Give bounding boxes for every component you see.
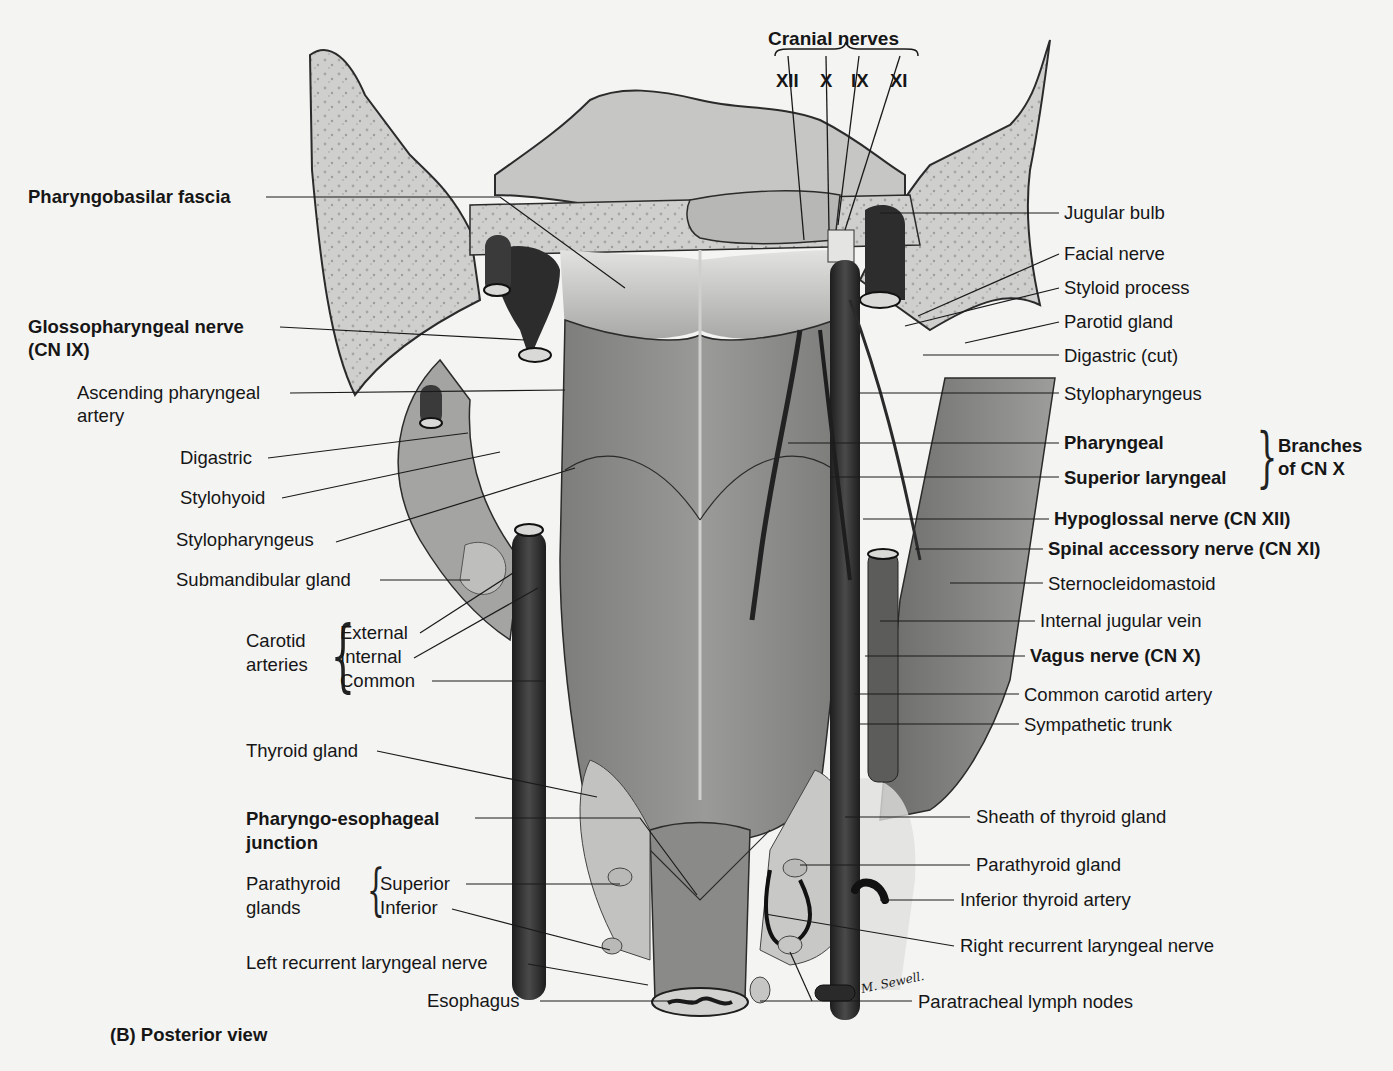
label-glossopharyngeal-cn: (CN IX) — [28, 339, 90, 361]
label-parathyroid-group-2: glands — [246, 897, 301, 919]
label-pharyngobasilar-fascia: Pharyngobasilar fascia — [28, 186, 231, 208]
pharynx-constrictors — [560, 320, 850, 845]
label-digastric: Digastric — [180, 447, 252, 469]
paratracheal-node-1 — [750, 977, 770, 1003]
label-styloid-process: Styloid process — [1064, 277, 1189, 299]
sternocleidomastoid-muscle — [880, 378, 1055, 820]
label-hypoglossal-nerve: Hypoglossal nerve (CN XII) — [1054, 508, 1290, 530]
label-pharyngo-esophageal: Pharyngo-esophageal — [246, 808, 439, 830]
label-carotid-external: External — [340, 622, 408, 644]
cn-xi-label: XI — [890, 70, 907, 92]
label-carotid-internal: Internal — [340, 646, 402, 668]
label-branches-group: Branches — [1278, 435, 1362, 457]
label-stylopharyngeus-right: Stylopharyngeus — [1064, 383, 1202, 405]
label-parathyroid-superior: Superior — [380, 873, 450, 895]
occipital-bone — [495, 91, 905, 210]
label-internal-jugular-vein: Internal jugular vein — [1040, 610, 1201, 632]
label-stylohyoid: Stylohyoid — [180, 487, 265, 509]
right-parathyroid — [783, 859, 807, 877]
esophagus-tube — [650, 823, 750, 1001]
label-left-recurrent-laryngeal: Left recurrent laryngeal nerve — [246, 952, 488, 974]
label-pharyngeal-branch: Pharyngeal — [1064, 432, 1164, 454]
label-vagus-nerve: Vagus nerve (CN X) — [1030, 645, 1201, 667]
label-carotid-common: Common — [340, 670, 415, 692]
figure-caption: (B) Posterior view — [110, 1024, 267, 1046]
label-ascending-pharyngeal-artery: artery — [77, 405, 124, 427]
petrous-ridge — [687, 191, 840, 244]
label-spinal-accessory-nerve: Spinal accessory nerve (CN XI) — [1048, 538, 1320, 560]
right-common-carotid — [830, 260, 860, 1020]
left-mandible-muscle — [398, 360, 520, 640]
label-sheath-of-thyroid: Sheath of thyroid gland — [976, 806, 1166, 828]
label-sympathetic-trunk: Sympathetic trunk — [1024, 714, 1172, 736]
label-carotid-group: Carotid — [246, 630, 306, 652]
label-right-recurrent-laryngeal: Right recurrent laryngeal nerve — [960, 935, 1214, 957]
cn-xii-label: XII — [776, 70, 799, 92]
label-esophagus: Esophagus — [427, 990, 520, 1012]
nerve-sheath-cuff — [828, 230, 854, 262]
label-digastric-cut: Digastric (cut) — [1064, 345, 1178, 367]
label-facial-nerve: Facial nerve — [1064, 243, 1165, 265]
label-glossopharyngeal-nerve: Glossopharyngeal nerve — [28, 316, 244, 338]
label-submandibular-gland: Submandibular gland — [176, 569, 351, 591]
label-jugular-bulb: Jugular bulb — [1064, 202, 1165, 224]
label-pharyngo-esophageal-junction: junction — [246, 832, 318, 854]
paratracheal-node-2 — [778, 936, 802, 954]
label-common-carotid-artery: Common carotid artery — [1024, 684, 1212, 706]
left-parathyroid-superior — [608, 868, 632, 886]
right-internal-jugular-vein — [868, 552, 898, 782]
label-parotid-gland: Parotid gland — [1064, 311, 1173, 333]
right-jugular-bulb — [865, 205, 905, 300]
left-parathyroid-inferior — [602, 938, 622, 954]
label-superior-laryngeal-branch: Superior laryngeal — [1064, 467, 1226, 489]
label-parathyroid-inferior: Inferior — [380, 897, 438, 919]
label-ascending-pharyngeal: Ascending pharyngeal — [77, 382, 260, 404]
cranial-nerves-title: Cranial nerves — [768, 28, 899, 50]
label-paratracheal-lymph-nodes: Paratracheal lymph nodes — [918, 991, 1133, 1013]
cn-ix-label: IX — [851, 70, 868, 92]
left-temporal-bone — [310, 50, 480, 395]
label-parathyroid-group: Parathyroid — [246, 873, 341, 895]
label-branches-group-2: of CN X — [1278, 458, 1345, 480]
label-carotid-group-2: arteries — [246, 654, 308, 676]
label-inferior-thyroid-artery: Inferior thyroid artery — [960, 889, 1131, 911]
branches-brace: } — [1257, 424, 1278, 490]
cn-x-label: X — [820, 70, 832, 92]
label-stylopharyngeus-left: Stylopharyngeus — [176, 529, 314, 551]
label-thyroid-gland: Thyroid gland — [246, 740, 358, 762]
label-sternocleidomastoid: Sternocleidomastoid — [1048, 573, 1216, 595]
label-parathyroid-gland: Parathyroid gland — [976, 854, 1121, 876]
